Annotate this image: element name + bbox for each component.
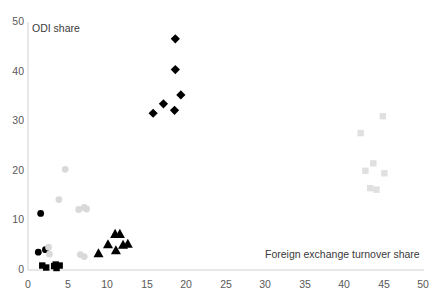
y-tick-30: 30 bbox=[0, 114, 24, 126]
x-tick-50: 50 bbox=[408, 278, 436, 290]
y-tick-0: 0 bbox=[0, 263, 24, 275]
data-point-square bbox=[381, 170, 387, 176]
y-tick-10: 10 bbox=[0, 213, 24, 225]
y-axis-title: ODI share bbox=[32, 22, 80, 34]
y-tick-20: 20 bbox=[0, 164, 24, 176]
markers-layer bbox=[35, 34, 388, 271]
data-point-square bbox=[53, 261, 59, 267]
series-gray-squares bbox=[357, 113, 387, 193]
y-tick-40: 40 bbox=[0, 65, 24, 77]
x-tick-10: 10 bbox=[92, 278, 122, 290]
series-black-diamonds bbox=[149, 34, 186, 118]
data-point-circle bbox=[55, 196, 62, 203]
series-black-triangles bbox=[93, 229, 132, 257]
data-point-square bbox=[43, 264, 49, 270]
data-point-diamond bbox=[171, 34, 180, 43]
data-point-circle bbox=[46, 251, 53, 258]
y-tick-50: 50 bbox=[0, 15, 24, 27]
data-point-diamond bbox=[171, 65, 180, 74]
data-point-square bbox=[380, 113, 386, 119]
x-tick-5: 5 bbox=[53, 278, 83, 290]
data-point-circle bbox=[81, 253, 88, 260]
data-point-square bbox=[362, 168, 368, 174]
data-point-diamond bbox=[176, 90, 185, 99]
x-axis-title: Foreign exchange turnover share bbox=[265, 248, 420, 260]
data-point-square bbox=[373, 186, 379, 192]
data-point-square bbox=[367, 185, 373, 191]
data-point-circle bbox=[45, 244, 52, 251]
data-point-circle bbox=[62, 166, 69, 173]
plot-area bbox=[0, 0, 436, 306]
x-tick-25: 25 bbox=[211, 278, 241, 290]
data-point-diamond bbox=[170, 106, 179, 115]
data-point-square bbox=[357, 130, 363, 136]
x-tick-35: 35 bbox=[290, 278, 320, 290]
scatter-chart: 50 40 30 20 10 0 0 5 10 15 20 25 30 35 4… bbox=[0, 0, 436, 306]
data-point-circle bbox=[35, 249, 42, 256]
data-point-square bbox=[370, 160, 376, 166]
data-point-diamond bbox=[159, 99, 168, 108]
x-tick-40: 40 bbox=[329, 278, 359, 290]
x-tick-45: 45 bbox=[369, 278, 399, 290]
x-tick-30: 30 bbox=[250, 278, 280, 290]
data-point-circle bbox=[83, 206, 90, 213]
x-tick-20: 20 bbox=[171, 278, 201, 290]
data-point-triangle bbox=[103, 239, 113, 248]
data-point-circle bbox=[37, 210, 44, 217]
x-tick-15: 15 bbox=[132, 278, 162, 290]
series-gray-circles bbox=[45, 166, 90, 260]
x-tick-0: 0 bbox=[13, 278, 43, 290]
data-point-diamond bbox=[149, 109, 158, 118]
data-point-triangle bbox=[93, 248, 103, 257]
